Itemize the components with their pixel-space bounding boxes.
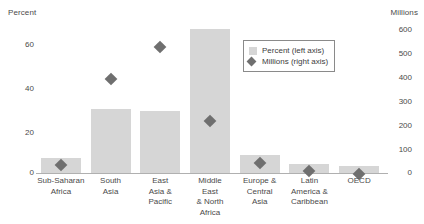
- category-label: Sub-Saharan Africa: [36, 176, 86, 197]
- bar-group: [190, 18, 230, 173]
- left-axis-ticks: 60 40 20 0: [8, 0, 34, 224]
- right-tick-200: 200: [390, 122, 412, 130]
- right-tick-500: 500: [390, 50, 412, 58]
- left-tick-20: 20: [8, 129, 34, 137]
- bar: [190, 29, 230, 173]
- category-label: Latin America & Caribbean: [285, 176, 335, 208]
- left-tick-0: 0: [8, 169, 34, 177]
- category-label: South Asia: [86, 176, 136, 197]
- bar-group: [91, 18, 131, 173]
- right-tick-300: 300: [390, 98, 412, 106]
- right-tick-0: 0: [390, 169, 412, 177]
- category-label: Europe & Central Asia: [235, 176, 285, 208]
- left-tick-40: 40: [8, 85, 34, 93]
- bar-group: [140, 18, 180, 173]
- data-marker: [154, 41, 167, 54]
- bar-group: [41, 18, 81, 173]
- category-label: Middle East & North Africa: [185, 176, 235, 218]
- right-tick-400: 400: [390, 74, 412, 82]
- right-axis-ticks: 600 500 400 300 200 100 0: [390, 0, 412, 224]
- chart-container: Percent Millions 60 40 20 0 600 500 400 …: [0, 0, 424, 224]
- left-tick-60: 60: [8, 41, 34, 49]
- bar-group: [289, 18, 329, 173]
- right-tick-600: 600: [390, 26, 412, 34]
- data-marker: [104, 73, 117, 86]
- right-tick-100: 100: [390, 146, 412, 154]
- bar-group: [240, 18, 280, 173]
- bar: [91, 109, 131, 173]
- bar: [140, 111, 180, 173]
- category-label: East Asia & Pacific: [135, 176, 185, 208]
- category-label: OECD: [334, 176, 384, 187]
- bar-group: [339, 18, 379, 173]
